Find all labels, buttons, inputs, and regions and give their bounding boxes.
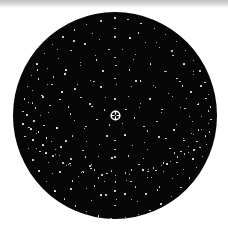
star-point	[139, 107, 140, 108]
star-point	[177, 174, 178, 175]
star-point	[145, 193, 146, 194]
star-point	[114, 57, 115, 58]
star-point	[80, 97, 81, 98]
star-point	[172, 178, 173, 179]
star-point	[66, 165, 67, 166]
star-point	[199, 147, 200, 148]
star-point	[73, 40, 75, 42]
star-point	[179, 81, 180, 82]
star-point	[110, 218, 111, 219]
star-point	[42, 144, 44, 146]
star-point	[183, 169, 184, 170]
star-point	[83, 171, 84, 172]
star-point	[138, 32, 139, 33]
star-point	[114, 149, 115, 150]
star-point	[32, 102, 33, 103]
star-point	[143, 158, 145, 160]
star-point	[201, 116, 202, 117]
star-point	[80, 62, 81, 63]
star-point	[174, 152, 175, 153]
star-point	[37, 69, 39, 71]
star-point	[114, 140, 116, 142]
star-point	[72, 135, 73, 136]
star-point	[31, 75, 32, 76]
star-point	[189, 177, 190, 178]
star-point	[147, 149, 148, 150]
star-point	[135, 54, 136, 55]
star-point	[176, 78, 177, 79]
star-point	[183, 140, 184, 141]
star-point	[129, 69, 130, 70]
star-point	[124, 193, 126, 195]
star-point	[55, 154, 56, 155]
star-point	[45, 152, 47, 154]
star-point	[90, 168, 92, 170]
star-point	[54, 190, 56, 192]
star-point	[170, 161, 171, 162]
star-point	[53, 76, 54, 77]
star-point	[64, 73, 66, 75]
star-point	[180, 151, 182, 153]
star-point	[100, 86, 102, 88]
sky-disc-container[interactable]	[13, 12, 217, 219]
star-point	[77, 84, 78, 85]
star-point	[104, 181, 105, 182]
star-point	[42, 96, 43, 97]
star-point	[80, 65, 81, 66]
star-point	[52, 155, 53, 156]
star-point	[171, 50, 172, 51]
star-point	[193, 71, 194, 72]
star-point	[145, 42, 146, 43]
star-point	[24, 136, 25, 137]
star-point	[96, 59, 98, 61]
star-point	[132, 145, 133, 146]
star-point	[38, 78, 39, 79]
star-point	[185, 50, 187, 52]
star-point	[129, 174, 130, 175]
star-point	[65, 140, 67, 142]
star-point	[130, 181, 131, 182]
star-point	[193, 60, 194, 61]
star-point	[106, 173, 107, 174]
star-point	[43, 125, 45, 127]
star-point	[74, 29, 76, 31]
star-point	[147, 171, 148, 172]
sky-disc[interactable]	[13, 12, 217, 219]
star-point	[70, 50, 71, 51]
star-point	[28, 127, 29, 128]
star-point	[22, 123, 24, 125]
star-point	[59, 155, 60, 156]
star-point	[165, 138, 166, 139]
star-point	[169, 148, 170, 149]
star-point	[176, 41, 177, 42]
star-point	[108, 49, 109, 50]
star-point	[95, 55, 96, 56]
star-point	[133, 59, 134, 60]
star-point	[151, 177, 152, 178]
star-point	[74, 88, 75, 89]
star-point	[134, 117, 135, 118]
star-point	[199, 70, 200, 71]
star-point	[35, 107, 36, 108]
star-point	[52, 173, 53, 174]
star-point	[114, 28, 115, 29]
star-point	[91, 200, 93, 202]
star-point	[131, 199, 132, 200]
star-point	[33, 120, 35, 122]
star-point	[99, 144, 101, 146]
star-point	[59, 171, 60, 172]
star-chart-view	[0, 0, 228, 231]
bottom-margin	[0, 221, 228, 231]
star-point	[49, 105, 50, 106]
star-point	[202, 156, 203, 157]
star-point	[24, 98, 26, 100]
star-point	[184, 108, 185, 109]
star-point	[147, 177, 148, 178]
star-point	[52, 44, 53, 45]
star-point	[142, 169, 144, 171]
star-point	[166, 71, 167, 72]
star-point	[205, 135, 206, 136]
star-point	[198, 129, 199, 130]
star-point	[72, 180, 74, 182]
star-point	[98, 215, 100, 217]
